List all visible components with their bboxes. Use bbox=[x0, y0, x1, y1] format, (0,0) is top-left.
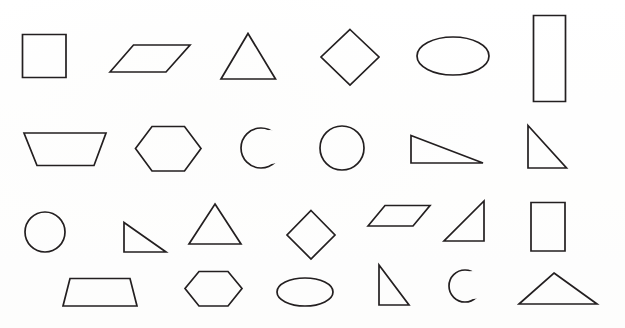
crescent-shape bbox=[449, 270, 487, 302]
diamond-shape bbox=[287, 211, 335, 260]
square-shape bbox=[23, 35, 67, 78]
crescent-outer-circle bbox=[241, 128, 281, 168]
right-triangle-shape bbox=[411, 136, 483, 164]
ellipse-shape bbox=[277, 278, 333, 306]
parallelogram-shape bbox=[368, 206, 430, 227]
crescent-outer-circle bbox=[449, 270, 481, 302]
right-triangle-shape bbox=[444, 201, 484, 241]
right-triangle-shape bbox=[379, 265, 409, 305]
triangle-shape bbox=[221, 34, 276, 80]
crescent-inner-circle bbox=[459, 271, 487, 299]
shape-row-2 bbox=[24, 126, 567, 172]
shape-row-1 bbox=[23, 16, 566, 102]
obtuse-triangle-shape bbox=[519, 273, 597, 304]
circle-shape bbox=[320, 126, 364, 170]
hexagon-shape bbox=[136, 127, 202, 172]
shape-collection bbox=[0, 0, 625, 328]
right-triangle-shape bbox=[124, 223, 166, 253]
shape-row-4 bbox=[63, 265, 597, 306]
crescent-inner-circle bbox=[253, 130, 287, 164]
trapezoid-shape bbox=[24, 133, 106, 166]
right-triangle-shape bbox=[528, 126, 567, 169]
trapezoid-shape bbox=[63, 279, 137, 307]
crescent-shape bbox=[241, 128, 287, 168]
rectangle-shape bbox=[531, 203, 565, 252]
diamond-shape bbox=[321, 30, 379, 86]
rectangle-shape bbox=[534, 16, 566, 102]
shape-row-3 bbox=[25, 201, 565, 259]
ellipse-shape bbox=[417, 37, 489, 75]
parallelogram-shape bbox=[110, 45, 190, 72]
circle-shape bbox=[25, 212, 65, 252]
worksheet-canvas bbox=[0, 0, 625, 328]
hexagon-shape bbox=[185, 272, 242, 307]
triangle-shape bbox=[189, 204, 241, 244]
